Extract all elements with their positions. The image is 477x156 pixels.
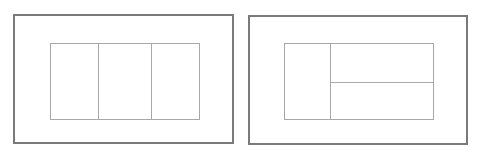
row-divider [331,82,433,83]
column-divider-1 [98,44,99,119]
inner-panel [50,43,200,120]
inner-panel [284,43,434,120]
layout-diagram-column-and-two-rows [248,15,468,145]
column-divider-2 [151,44,152,119]
layout-diagram-three-columns [13,14,234,144]
